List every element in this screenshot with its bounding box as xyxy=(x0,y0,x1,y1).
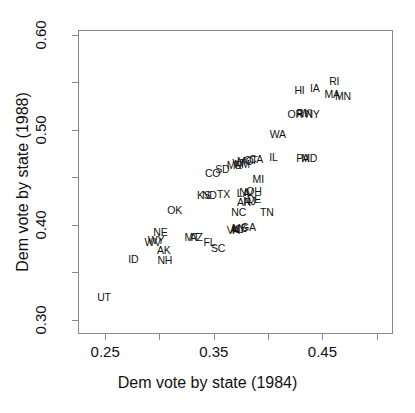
data-point-label: MN xyxy=(335,90,351,101)
y-axis-tick-label: 0.60 xyxy=(32,20,49,49)
data-point-label: WA xyxy=(270,128,286,139)
y-axis-tick-label: 0.50 xyxy=(32,115,49,144)
data-point-label: AZ xyxy=(190,232,203,243)
y-axis-tick xyxy=(72,177,78,178)
x-axis-tick xyxy=(105,334,106,340)
data-point-label: NH xyxy=(157,255,172,266)
data-point-label: IA xyxy=(310,83,320,94)
x-axis-tick xyxy=(322,334,323,340)
data-point-label: SC xyxy=(211,242,225,253)
data-point-label: RI xyxy=(329,76,339,87)
y-axis-tick xyxy=(72,130,78,131)
data-point-label: NE xyxy=(153,227,167,238)
data-point-label: NC xyxy=(231,207,246,218)
x-axis-tick-label: 0.35 xyxy=(199,343,228,360)
y-axis-tick xyxy=(72,35,78,36)
data-point-label: MD xyxy=(301,153,317,164)
data-point-label: OK xyxy=(167,204,182,215)
data-point-label: NY xyxy=(305,108,319,119)
y-axis-tick xyxy=(72,272,78,273)
data-point-label: TX xyxy=(217,189,230,200)
y-axis-tick xyxy=(72,320,78,321)
data-point-label: MI xyxy=(253,174,264,185)
x-axis-tick xyxy=(268,334,269,340)
y-axis-label: Dem vote by state (1988) xyxy=(14,92,32,272)
data-point-label: UT xyxy=(97,292,111,303)
x-axis-tick xyxy=(377,334,378,340)
x-axis-tick xyxy=(214,334,215,340)
plot-panel: UTIDNHAKWVWYNEMTAZFLSCOKKSNDTXVAALKYMSGA… xyxy=(78,30,393,334)
x-axis-tick-label: 0.45 xyxy=(308,343,337,360)
y-axis-tick-label: 0.40 xyxy=(32,210,49,239)
y-axis-tick-label: 0.30 xyxy=(32,305,49,334)
x-axis-tick xyxy=(159,334,160,340)
data-point-label: CA xyxy=(249,154,263,165)
data-point-label: ND xyxy=(202,190,217,201)
y-axis-tick xyxy=(72,225,78,226)
data-point-label: TN xyxy=(260,206,274,217)
x-axis-tick-label: 0.25 xyxy=(91,343,120,360)
data-point-label: ID xyxy=(128,254,138,265)
scatter-plot-figure: UTIDNHAKWVWYNEMTAZFLSCOKKSNDTXVAALKYMSGA… xyxy=(0,0,415,413)
y-axis-tick xyxy=(72,82,78,83)
data-point-label: HI xyxy=(294,85,304,96)
data-point-label: GA xyxy=(241,221,256,232)
x-axis-label: Dem vote by state (1984) xyxy=(0,374,415,392)
data-point-label: OH xyxy=(246,185,261,196)
data-point-label: IL xyxy=(269,152,277,163)
